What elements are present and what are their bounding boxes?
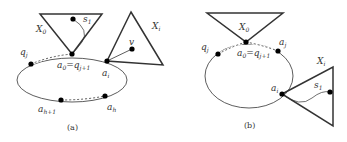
node-s1 — [70, 16, 75, 21]
label-ah1: ah+1 — [38, 104, 56, 115]
label-a0-eq-qj1: a0=qj+1 — [57, 60, 90, 72]
node-qj — [28, 61, 33, 66]
node-ai — [104, 58, 109, 63]
label-ah: ah — [107, 102, 116, 113]
node-ai — [279, 91, 284, 96]
label-ai: ai — [102, 68, 109, 79]
caption-b: (b) — [244, 121, 255, 130]
label-a0-eq-qj1: a0=qj+1 — [237, 48, 270, 60]
label-s1: s1 — [83, 14, 91, 25]
caption-a: (a) — [67, 123, 78, 132]
label-x0: X0 — [35, 24, 46, 35]
panel-b: X0 Xi s1 qj a0=qj+1 aj ai (b) — [201, 13, 333, 130]
node-v — [129, 46, 134, 51]
label-qj: qj — [20, 47, 28, 59]
node-a0 — [69, 51, 74, 56]
panel-a: X0 s1 Xi v qj a0=qj+1 ai ah+1 ah (a) — [17, 12, 163, 132]
label-aj: aj — [279, 37, 286, 49]
label-s1: s1 — [314, 80, 322, 91]
label-x0: X0 — [238, 22, 249, 33]
node-qj — [215, 51, 220, 56]
path-ai-s1 — [282, 92, 330, 103]
label-xi: Xi — [151, 21, 160, 32]
label-qj: qj — [201, 42, 209, 54]
node-ah1 — [58, 97, 63, 102]
label-xi: Xi — [316, 56, 325, 67]
label-ai: ai — [271, 83, 278, 94]
path-s1-a0 — [72, 19, 85, 54]
diagram: X0 s1 Xi v qj a0=qj+1 ai ah+1 ah (a) X0 … — [0, 0, 347, 142]
label-v: v — [129, 37, 134, 47]
node-aj — [275, 48, 280, 53]
subtree-xi-triangle — [282, 67, 333, 126]
node-a0 — [243, 39, 248, 44]
node-ah — [102, 93, 107, 98]
node-s1 — [327, 89, 332, 94]
